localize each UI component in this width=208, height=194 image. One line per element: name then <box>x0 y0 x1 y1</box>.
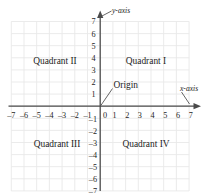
y-axis-name-label: y-axis <box>111 6 130 15</box>
y-tick-label: –4 <box>88 151 97 160</box>
y-axis-name-callout-group: y-axis <box>102 6 130 16</box>
quadrant-label-2: Quadrant II <box>33 56 76 66</box>
axis-group <box>9 11 202 192</box>
y-tick-label: 5 <box>91 42 95 51</box>
quadrant-labels-group: Quadrant II Quadrant I Quadrant III Quad… <box>33 56 170 149</box>
y-tick-label: 7 <box>91 17 95 26</box>
x-tick-label: 4 <box>151 111 155 120</box>
coordinate-plane-svg: –7 –6 –5 –4 –3 –2 –1 0 1 2 3 4 5 6 7 7 6… <box>0 0 208 193</box>
x-tick-label: 1 <box>112 111 116 120</box>
x-tick-label: –5 <box>32 111 41 120</box>
y-tick-label: 6 <box>91 30 95 39</box>
x-tick-label: 2 <box>125 111 129 120</box>
y-axis-name-leader-line <box>102 11 112 16</box>
origin-label: Origin <box>114 80 139 90</box>
y-tick-labels-positive-group: 7 6 5 4 3 2 1 <box>91 17 95 99</box>
x-tick-label: –7 <box>6 111 15 120</box>
y-tick-label: 4 <box>91 54 95 63</box>
y-tick-labels-negative-group: –1 –2 –3 –4 –5 –6 –7 <box>88 115 97 194</box>
y-tick-label: –2 <box>88 127 97 136</box>
x-tick-label: 3 <box>138 111 142 120</box>
x-tick-label: –4 <box>44 111 53 120</box>
x-tick-label-zero: 0 <box>103 111 107 120</box>
origin-leader-line <box>101 89 113 106</box>
y-tick-label: –6 <box>88 175 97 184</box>
x-tick-label: 6 <box>176 111 180 120</box>
y-tick-label: –1 <box>88 115 97 124</box>
x-axis-arrowhead <box>194 103 202 109</box>
y-tick-label: –3 <box>88 139 97 148</box>
coordinate-plane-figure: –7 –6 –5 –4 –3 –2 –1 0 1 2 3 4 5 6 7 7 6… <box>0 0 208 193</box>
x-tick-label: 7 <box>189 111 193 120</box>
quadrant-label-4: Quadrant IV <box>122 139 169 149</box>
y-tick-label: 3 <box>91 66 95 75</box>
y-tick-label: –7 <box>88 187 97 194</box>
y-tick-label: –5 <box>88 163 97 172</box>
y-tick-label: 2 <box>91 78 95 87</box>
x-tick-label: 5 <box>163 111 167 120</box>
quadrant-label-3: Quadrant III <box>34 139 81 149</box>
origin-callout-group: Origin <box>101 80 139 106</box>
x-tick-label: –2 <box>70 111 79 120</box>
y-axis-arrowhead <box>97 11 103 19</box>
x-tick-label: –3 <box>57 111 66 120</box>
quadrant-label-1: Quadrant I <box>126 56 166 66</box>
x-axis-name-label: x-axis <box>179 84 198 93</box>
y-tick-label: 1 <box>91 90 95 99</box>
x-tick-label: –6 <box>19 111 28 120</box>
